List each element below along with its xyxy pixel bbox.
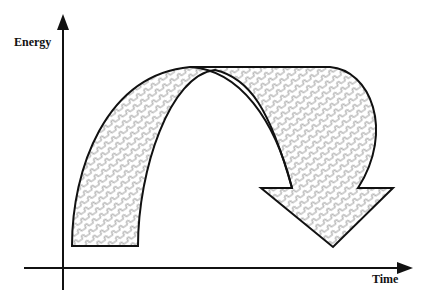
y-axis-label: Energy (14, 35, 51, 49)
y-axis (57, 14, 69, 290)
energy-time-diagram: Energy Time (0, 0, 431, 299)
y-axis-arrowhead-icon (57, 14, 69, 30)
arrow-rising-band (72, 67, 393, 247)
x-axis (24, 262, 413, 274)
x-axis-label: Time (372, 272, 399, 286)
x-axis-arrowhead-icon (397, 262, 413, 274)
curved-arrow (72, 67, 393, 247)
